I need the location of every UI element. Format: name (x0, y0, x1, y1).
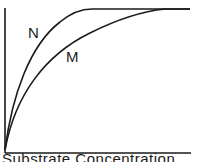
saturation-chart: N M (0, 0, 201, 162)
curve-n-label: N (28, 24, 39, 41)
x-axis-label: Substrate Concentration (2, 150, 175, 162)
curve-m-label: M (66, 48, 79, 65)
